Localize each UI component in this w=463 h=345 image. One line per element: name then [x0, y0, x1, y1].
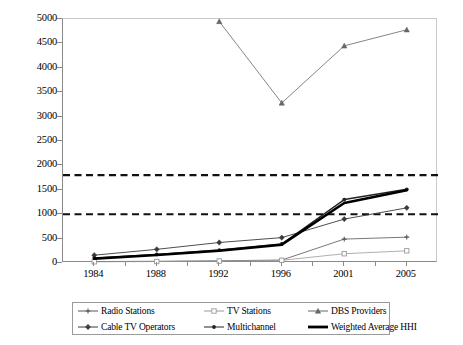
thick-line-icon [307, 322, 329, 332]
x-tick-mark [218, 262, 219, 266]
x-tick-label: 2005 [396, 268, 416, 279]
cross-icon [77, 306, 99, 316]
x-tick-mark [343, 262, 344, 266]
data-point-dot [342, 198, 346, 202]
legend-item: Weighted Average HHI [307, 322, 395, 332]
y-tick-label: 4000 [37, 62, 57, 73]
plot-area [62, 18, 437, 262]
data-point-cross [86, 309, 91, 314]
data-point-diamond [86, 324, 91, 329]
data-point-cross [342, 237, 347, 242]
x-tick-mark [406, 262, 407, 266]
y-tick-label: 500 [42, 232, 57, 243]
legend-label: Radio Stations [101, 306, 155, 316]
y-axis: 0500100015002000250030003500400045005000 [0, 0, 57, 345]
legend-label: Weighted Average HHI [331, 322, 417, 332]
data-point-square-open [405, 249, 409, 253]
legend-item: TV Stations [203, 306, 307, 316]
y-tick-label: 1500 [37, 184, 57, 195]
legend-item: DBS Providers [307, 306, 395, 316]
x-minor-tick-mark [375, 262, 376, 266]
x-tick-mark [281, 262, 282, 266]
legend-item: Multichannel [203, 322, 307, 332]
data-point-square-open [212, 309, 216, 313]
legend-item: Cable TV Operators [77, 322, 203, 332]
x-tick-mark [156, 262, 157, 266]
diamond-icon [77, 322, 99, 332]
legend-label: TV Stations [227, 306, 271, 316]
y-tick-label: 5000 [37, 13, 57, 24]
x-tick-label: 2001 [333, 268, 353, 279]
series-weighted-average-hhi [94, 190, 407, 258]
y-tick-label: 2500 [37, 135, 57, 146]
data-point-triangle [217, 19, 222, 24]
plot-inner [63, 19, 436, 261]
legend-label: DBS Providers [331, 306, 386, 316]
legend-label: Cable TV Operators [101, 322, 175, 332]
line-chart: 0500100015002000250030003500400045005000… [0, 0, 463, 345]
data-point-diamond [154, 247, 159, 252]
x-tick-label: 1984 [83, 268, 103, 279]
y-tick-label: 3000 [37, 110, 57, 121]
x-tick-label: 1996 [271, 268, 291, 279]
data-point-diamond [217, 240, 222, 245]
x-minor-tick-mark [125, 262, 126, 266]
x-tick-label: 1988 [146, 268, 166, 279]
triangle-icon [307, 306, 329, 316]
data-point-diamond [279, 235, 284, 240]
data-point-dot [212, 325, 216, 329]
series-dbs-providers [217, 19, 410, 105]
data-point-cross [404, 235, 409, 240]
legend-item: Radio Stations [77, 306, 203, 316]
y-tick-label: 4500 [37, 37, 57, 48]
legend-label: Multichannel [227, 322, 276, 332]
y-tick-mark [57, 262, 62, 263]
x-tick-mark [93, 262, 94, 266]
chart-legend: Radio StationsTV StationsDBS ProvidersCa… [72, 302, 390, 335]
dot-icon [203, 322, 225, 332]
y-tick-label: 3500 [37, 86, 57, 97]
series-radio-stations [92, 235, 409, 264]
x-minor-tick-mark [187, 262, 188, 266]
data-point-diamond [404, 205, 409, 210]
series-layer [63, 19, 438, 263]
data-point-diamond [342, 216, 347, 221]
y-tick-label: 1000 [37, 208, 57, 219]
series-cable-tv-operators [92, 205, 410, 258]
square-open-icon [203, 306, 225, 316]
data-point-triangle [404, 27, 409, 32]
x-tick-label: 1992 [208, 268, 228, 279]
x-minor-tick-mark [312, 262, 313, 266]
data-point-square-open [342, 252, 346, 256]
y-tick-label: 2000 [37, 159, 57, 170]
x-minor-tick-mark [250, 262, 251, 266]
